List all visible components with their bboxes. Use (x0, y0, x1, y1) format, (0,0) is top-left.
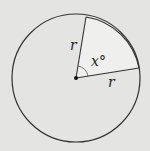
angle-label: x° (91, 53, 106, 69)
shaded-sector (76, 17, 139, 78)
center-point (74, 76, 78, 80)
circle-diagram: r r x° (0, 0, 150, 151)
